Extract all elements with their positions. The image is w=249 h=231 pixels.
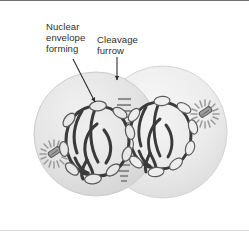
cell-division-figure: Nuclear envelope forming Cleavage furrow — [0, 0, 249, 231]
label-nuclear-envelope-forming: Nuclear envelope forming — [46, 21, 85, 54]
label-cleavage-furrow: Cleavage furrow — [97, 34, 138, 56]
